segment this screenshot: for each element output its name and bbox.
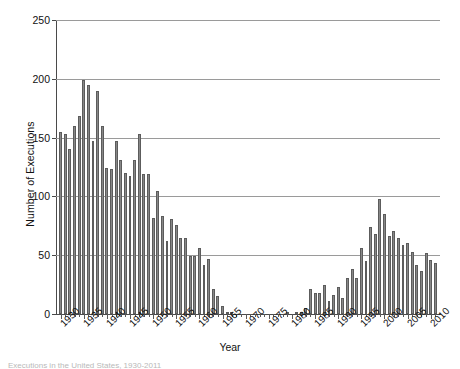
bar-1932: [68, 149, 71, 314]
bar-1952: [161, 216, 164, 314]
gridline-250: [56, 20, 440, 21]
x-tick-label-1975: 1975: [266, 305, 290, 329]
bar-1956: [179, 238, 182, 314]
y-axis-line: [56, 20, 57, 315]
y-tick-label-250: 250: [32, 14, 50, 26]
bar-1996: [365, 261, 368, 314]
bar-1946: [133, 160, 136, 314]
plot-area: 050100150200250 193019351940194519501955…: [56, 20, 440, 314]
bar-1960: [198, 248, 201, 314]
bar-1953: [166, 241, 169, 314]
x-tick-label-1980: 1980: [289, 305, 313, 329]
bar-2004: [402, 245, 405, 314]
y-tick-label-200: 200: [32, 73, 50, 85]
x-tick-label-1970: 1970: [243, 305, 267, 329]
bar-1948: [142, 174, 145, 314]
bar-2000: [383, 214, 386, 314]
y-tick-label-150: 150: [32, 132, 50, 144]
bar-2006: [411, 252, 414, 314]
bar-1994: [355, 278, 358, 314]
bar-2010: [429, 260, 432, 314]
y-tick-mark-250: [52, 20, 56, 21]
figure-caption: Executions in the United States, 1930-20…: [8, 361, 161, 369]
bar-1942: [115, 141, 118, 314]
bar-1954: [170, 219, 173, 314]
bar-1961: [203, 265, 206, 314]
bar-2002: [392, 231, 395, 314]
bar-2005: [406, 243, 409, 314]
y-tick-mark-50: [52, 255, 56, 256]
bar-1938: [96, 91, 99, 314]
bar-2011: [434, 263, 437, 314]
y-tick-label-50: 50: [38, 249, 50, 261]
x-tick-mark-2004: [403, 314, 404, 317]
y-tick-mark-0: [52, 314, 56, 315]
bar-1937: [92, 141, 95, 314]
x-axis-title: Year: [0, 341, 460, 353]
bar-1934: [78, 116, 81, 314]
bar-1997: [369, 227, 372, 314]
bar-1999: [378, 199, 381, 314]
bar-1998: [374, 234, 377, 314]
bar-1959: [193, 256, 196, 314]
bar-1947: [138, 134, 141, 314]
bar-1940: [105, 168, 108, 314]
bar-1990: [337, 287, 340, 314]
bar-1949: [147, 174, 150, 314]
bar-1955: [175, 225, 178, 314]
y-tick-label-0: 0: [44, 308, 50, 320]
bar-2001: [388, 236, 391, 314]
bar-1941: [110, 169, 113, 314]
bar-1945: [129, 176, 132, 314]
bar-1965: [221, 306, 224, 314]
bar-1935: [82, 80, 85, 314]
y-tick-label-100: 100: [32, 190, 50, 202]
y-tick-mark-200: [52, 79, 56, 80]
bar-1995: [360, 248, 363, 314]
gridline-100: [56, 196, 440, 197]
bar-2009: [425, 253, 428, 314]
bar-1933: [73, 126, 76, 314]
y-tick-mark-150: [52, 138, 56, 139]
bar-1957: [184, 238, 187, 314]
bar-1944: [124, 173, 127, 314]
bar-2003: [397, 238, 400, 314]
bar-1936: [87, 85, 90, 314]
bar-1930: [59, 132, 62, 314]
executions-bar-chart-figure: Number of Executions 050100150200250 193…: [0, 0, 460, 369]
y-axis-title: Number of Executions: [24, 84, 36, 264]
bar-1950: [152, 218, 155, 314]
bar-1931: [64, 134, 67, 314]
bar-1943: [119, 160, 122, 314]
gridline-150: [56, 138, 440, 139]
bar-1951: [156, 191, 159, 314]
y-tick-mark-100: [52, 196, 56, 197]
gridline-200: [56, 79, 440, 80]
bar-1939: [101, 126, 104, 314]
bar-1985: [314, 293, 317, 314]
